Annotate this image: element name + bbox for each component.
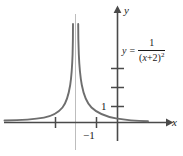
- x-tick-label-minus-1: −1: [83, 130, 95, 141]
- y-axis-arrowhead: [114, 6, 122, 14]
- equation-denominator: (x+2)2: [138, 52, 165, 64]
- equation-annotation: y = 1 (x+2)2: [122, 38, 165, 63]
- equation-numerator: 1: [147, 38, 156, 49]
- y-axis-label: y: [124, 5, 129, 16]
- equation-equals-sign: =: [129, 46, 135, 56]
- equation-lhs: y: [122, 46, 126, 56]
- y-tick-label-1: 1: [101, 101, 107, 112]
- x-axis-label: x: [172, 117, 177, 128]
- figure-container: y x 1 −1 y = 1 (x+2)2: [0, 0, 183, 156]
- curve-left-branch: [5, 24, 74, 121]
- equation-fraction: 1 (x+2)2: [138, 38, 165, 63]
- equation-exponent: 2: [161, 51, 165, 59]
